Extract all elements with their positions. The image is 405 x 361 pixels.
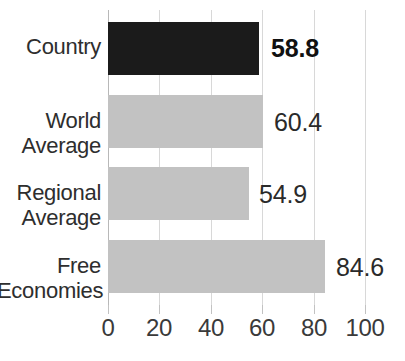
category-label-regional-average: Regional Average <box>0 180 101 230</box>
x-tick-label-80: 80 <box>301 316 327 340</box>
tick-mark-0 <box>108 305 109 314</box>
x-tick-label-60: 60 <box>249 316 275 340</box>
value-label-country: 58.8 <box>271 36 319 61</box>
bar-free-economies-fill <box>108 240 325 293</box>
category-label-free-economies: Free Economies <box>0 253 101 303</box>
x-tick-label-100: 100 <box>345 316 384 340</box>
category-label-free-economies-line1: Free <box>0 253 101 278</box>
category-label-world-average-line2: Average <box>0 133 101 158</box>
category-label-world-average-line1: World <box>0 108 101 133</box>
plot-area <box>108 10 365 305</box>
category-label-country-line1: Country <box>0 34 101 59</box>
category-axis: Country World Average Regional Average F… <box>0 10 101 305</box>
bar-world-average[interactable] <box>108 95 263 148</box>
tick-mark-20 <box>159 305 160 314</box>
bar-chart: Country World Average Regional Average F… <box>0 0 405 361</box>
category-label-regional-average-line2: Average <box>0 205 101 230</box>
category-label-regional-average-line1: Regional <box>0 180 101 205</box>
bar-regional-average[interactable] <box>108 167 249 220</box>
bar-world-average-fill <box>108 95 263 148</box>
category-label-country: Country <box>0 34 101 59</box>
category-label-world-average: World Average <box>0 108 101 158</box>
tick-mark-40 <box>211 305 212 314</box>
x-tick-label-20: 20 <box>146 316 172 340</box>
bar-country[interactable] <box>108 22 259 75</box>
bar-free-economies[interactable] <box>108 240 325 293</box>
x-tick-label-0: 0 <box>101 316 114 340</box>
bar-country-fill <box>108 22 259 75</box>
tick-mark-60 <box>262 305 263 314</box>
x-axis-tick-labels: 0 20 40 60 80 100 <box>108 316 365 350</box>
value-label-world-average: 60.4 <box>274 110 322 135</box>
value-label-free-economies: 84.6 <box>336 255 384 280</box>
value-label-regional-average: 54.9 <box>259 182 307 207</box>
category-label-free-economies-line2: Economies <box>0 278 101 303</box>
tick-mark-80 <box>314 305 315 314</box>
x-tick-label-40: 40 <box>198 316 224 340</box>
bar-regional-average-fill <box>108 167 249 220</box>
tick-mark-100 <box>365 305 366 314</box>
